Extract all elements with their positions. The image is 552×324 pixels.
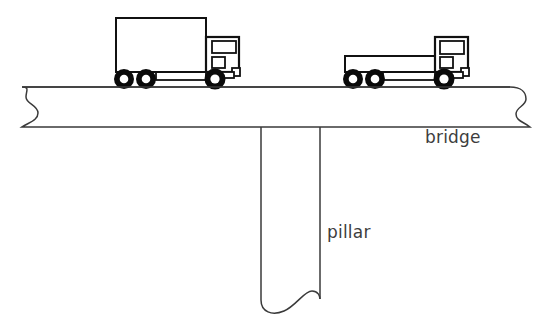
truck-left-upper-window [212, 41, 236, 53]
truck-right-upper-window [440, 41, 464, 54]
box-truck-left [114, 18, 240, 90]
label-bridge: bridge [425, 127, 481, 147]
bridge-deck [22, 87, 530, 127]
truck-right-lower-window [440, 57, 453, 68]
wheel-hub [210, 74, 219, 83]
diagram-canvas [0, 0, 552, 324]
pillar-column [261, 127, 320, 313]
wheel-hub [349, 75, 358, 84]
truck-left-box-body [116, 18, 206, 72]
label-pillar: pillar [327, 222, 371, 242]
bridge-pillar-diagram: bridge pillar [0, 0, 552, 324]
truck-right-flatbed-body [345, 56, 435, 72]
pillar-break-line [261, 291, 320, 313]
wheel-hub [439, 74, 448, 83]
wheel-hub [142, 75, 151, 84]
flatbed-truck-right [343, 37, 469, 90]
wheel-hub [120, 75, 129, 84]
truck-left-lower-window [212, 57, 225, 68]
wheel-hub [371, 75, 380, 84]
